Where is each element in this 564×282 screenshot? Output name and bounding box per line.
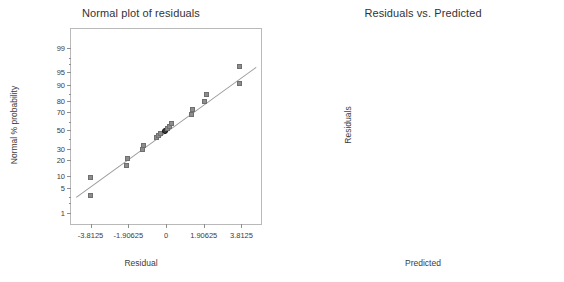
x-axis-title-predicted: Predicted xyxy=(282,258,564,268)
normal-plot-area xyxy=(71,29,261,224)
y-axis-tick-label: 20 xyxy=(57,156,65,165)
y-axis-tick xyxy=(67,112,71,113)
x-axis-tick xyxy=(166,224,167,228)
y-axis-tick xyxy=(67,176,71,177)
data-point xyxy=(202,99,207,104)
y-axis-tick xyxy=(67,130,71,131)
y-axis-tick xyxy=(67,72,71,73)
data-point xyxy=(204,92,209,97)
y-axis-minor-tick xyxy=(69,203,71,204)
x-axis-tick-label: 0 xyxy=(164,231,168,240)
page-title-residuals-vs-predicted: Residuals vs. Predicted xyxy=(282,7,564,19)
y-axis-tick xyxy=(67,85,71,86)
y-axis-tick-label: 1 xyxy=(61,208,65,217)
y-axis-tick-label: 50 xyxy=(57,126,65,135)
y-axis-tick xyxy=(67,101,71,102)
y-axis-tick-label: 30 xyxy=(57,144,65,153)
data-point xyxy=(237,81,242,86)
y-axis-minor-tick xyxy=(69,139,71,140)
x-axis-tick xyxy=(91,224,92,228)
y-axis-tick xyxy=(67,213,71,214)
normal-plot-frame: -3.8125-1.9062501.906253.812599959080705… xyxy=(70,28,262,225)
y-axis-tick xyxy=(67,160,71,161)
data-point xyxy=(237,64,242,69)
data-point xyxy=(141,143,146,148)
y-axis-minor-tick xyxy=(69,58,71,59)
y-axis-tick-label: 95 xyxy=(57,68,65,77)
y-axis-minor-tick xyxy=(69,197,71,198)
data-point xyxy=(169,121,174,126)
data-point xyxy=(190,107,195,112)
x-axis-tick-label: -1.90625 xyxy=(113,231,143,240)
y-axis-tick-label: 70 xyxy=(57,107,65,116)
data-point xyxy=(88,193,93,198)
x-axis-tick-label: 1.90625 xyxy=(190,231,217,240)
y-axis-minor-tick xyxy=(69,122,71,123)
y-axis-minor-tick xyxy=(69,94,71,95)
data-point xyxy=(125,156,130,161)
x-axis-tick xyxy=(204,224,205,228)
data-point xyxy=(189,112,194,117)
y-axis-tick xyxy=(67,48,71,49)
y-axis-title-normal-probability: Normal % probability xyxy=(9,75,19,175)
x-axis-tick-label: 3.8125 xyxy=(230,231,253,240)
x-axis-tick xyxy=(241,224,242,228)
y-axis-title-residuals: Residuals xyxy=(343,75,353,175)
y-axis-tick-label: 99 xyxy=(57,44,65,53)
y-axis-tick-label: 10 xyxy=(57,171,65,180)
data-point xyxy=(124,163,129,168)
y-axis-tick xyxy=(67,149,71,150)
residuals-vs-predicted-panel: Residuals vs. Predicted -3.8110.8125.444… xyxy=(282,0,564,282)
x-axis-tick xyxy=(128,224,129,228)
normal-plot-panel: Normal plot of residuals -3.8125-1.90625… xyxy=(0,0,282,282)
y-axis-tick-label: 90 xyxy=(57,81,65,90)
y-axis-tick-label: 80 xyxy=(57,96,65,105)
page-title-normal-plot: Normal plot of residuals xyxy=(0,7,282,19)
data-point xyxy=(88,175,93,180)
y-axis-minor-tick xyxy=(69,64,71,65)
y-axis-tick xyxy=(67,188,71,189)
x-axis-tick-label: -3.8125 xyxy=(78,231,103,240)
x-axis-title-residual: Residual xyxy=(0,258,282,268)
y-axis-tick-label: 5 xyxy=(61,184,65,193)
